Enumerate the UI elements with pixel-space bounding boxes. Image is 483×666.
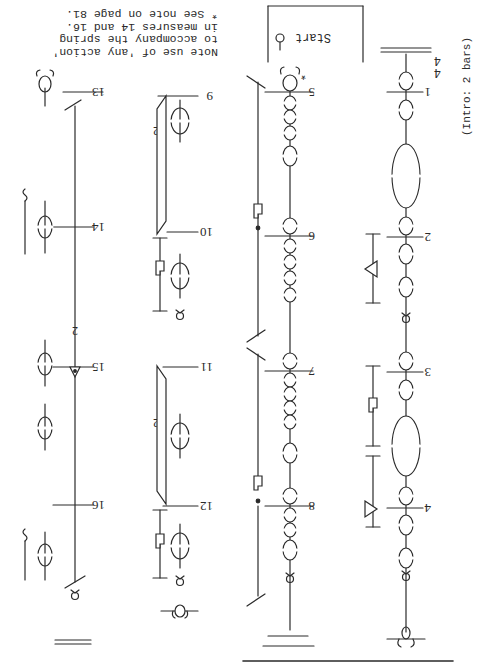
notation-graphics xyxy=(0,0,483,666)
staff-3 xyxy=(153,96,198,618)
staff-2 xyxy=(247,6,363,646)
staff-1 xyxy=(365,48,431,647)
staff-4 xyxy=(23,70,103,644)
notation-page: Note use of 'any action' to accompany th… xyxy=(0,0,483,666)
